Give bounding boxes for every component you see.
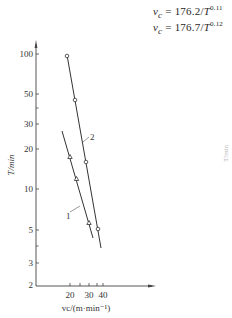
x-tick-30: 30	[85, 290, 95, 300]
y-tick-20: 20	[24, 144, 34, 154]
y-tick-10: 10	[24, 184, 34, 194]
series-label-2: 2	[90, 132, 95, 142]
y-tick-30: 30	[24, 119, 34, 129]
y-tick-labels: 100 50 30 20 10 5 3 2	[20, 49, 34, 290]
y-tick-100: 100	[20, 49, 34, 59]
clipped-axis-label: T/min	[222, 145, 230, 162]
y-axis-arrow-icon	[35, 40, 38, 48]
triangle-marker-icon	[68, 155, 72, 159]
triangle-marker-icon	[87, 221, 91, 225]
series-label-1: 1	[66, 211, 71, 221]
circle-marker-icon	[73, 98, 77, 102]
label-2-leader	[83, 137, 89, 142]
y-tick-2: 2	[29, 280, 34, 290]
y-axis-label: T/min	[6, 154, 16, 176]
y-tick-50: 50	[24, 89, 34, 99]
chart-canvas: 100 50 30 20 10 5 3 2 20 30 40 T/min vc/…	[0, 0, 232, 318]
label-1-leader	[70, 206, 80, 212]
x-axis-label: vc/(m·min⁻¹)	[62, 303, 110, 313]
series-1-markers	[68, 155, 91, 225]
x-tick-40: 40	[99, 290, 109, 300]
y-tick-3: 3	[29, 258, 34, 268]
circle-marker-icon	[65, 54, 69, 58]
x-axis-arrow-icon	[148, 285, 156, 288]
circle-marker-icon	[84, 160, 88, 164]
series-line-2	[67, 55, 101, 248]
circle-marker-icon	[96, 227, 100, 231]
x-tick-labels: 20 30 40	[66, 290, 109, 300]
x-tick-20: 20	[66, 290, 76, 300]
y-tick-5: 5	[29, 225, 34, 235]
